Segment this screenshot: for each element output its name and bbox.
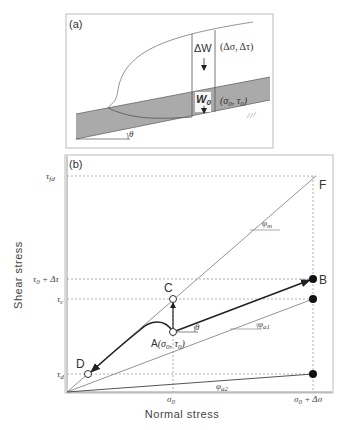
tick-tau0-plus: τ0 + Δτ <box>33 274 59 286</box>
point-d <box>85 371 92 378</box>
panel-b-label: (b) <box>69 158 82 170</box>
y-axis-title: Shear stress <box>12 241 24 309</box>
delta-stress-label: (Δσ, Δτ) <box>220 41 253 53</box>
tick-tau-fd: τfd <box>46 171 55 183</box>
delta-w-label: ΔW <box>194 42 212 54</box>
figure: (a) ΔW (Δσ, Δτ) W0 (σ0, τ0) θ (b) <box>0 0 351 430</box>
point-phi-a2-end <box>309 370 317 378</box>
x-axis-title: Normal stress <box>145 408 219 420</box>
point-phi-a1-end <box>309 295 317 303</box>
point-b <box>309 275 317 283</box>
point-a <box>170 329 177 336</box>
point-c <box>170 296 177 303</box>
tick-sigma0: σ0 <box>167 394 175 406</box>
tick-tau-d: τd <box>57 369 64 381</box>
tick-sigma-end: σ0 + Δσ <box>294 394 323 406</box>
label-b: B <box>319 273 327 287</box>
theta-label: θ <box>129 129 134 139</box>
panel-b-border <box>65 155 333 393</box>
label-c: C <box>164 281 173 295</box>
label-d: D <box>76 357 85 371</box>
panel-a-label: (a) <box>69 18 82 30</box>
tick-tau-c: τc <box>57 294 64 306</box>
panel-a: (a) ΔW (Δσ, Δτ) W0 (σ0, τ0) θ <box>66 14 273 148</box>
panel-b: (b) φm φa1 φa2 θ <box>12 155 333 420</box>
label-f: F <box>319 178 326 192</box>
